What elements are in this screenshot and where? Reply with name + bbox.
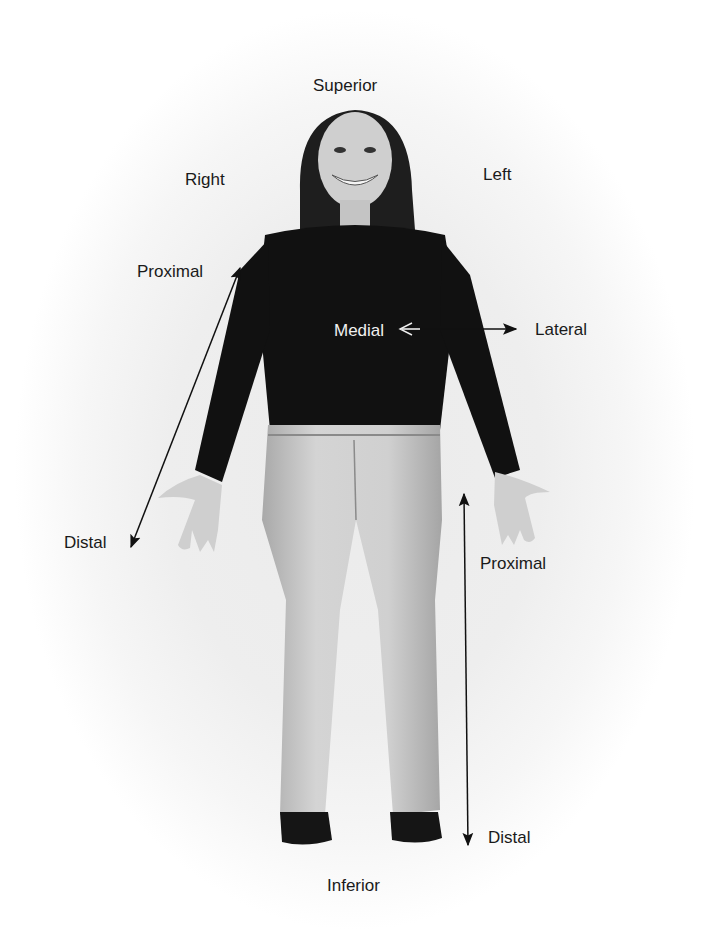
anatomy-diagram: Superior Right Left Proximal Medial Late… xyxy=(0,0,707,938)
label-leg-proximal: Proximal xyxy=(480,555,546,572)
face xyxy=(318,112,392,208)
label-superior: Superior xyxy=(313,77,377,94)
label-medial: Medial xyxy=(334,322,384,339)
right-sleeve xyxy=(195,240,270,482)
leg-proximal-distal-arrow xyxy=(464,494,468,845)
right-shoe xyxy=(280,812,332,845)
right-hand xyxy=(158,475,222,552)
label-leg-distal: Distal xyxy=(488,829,531,846)
jeans xyxy=(262,425,442,815)
label-right: Right xyxy=(185,171,225,188)
figure-illustration xyxy=(0,0,707,938)
label-arm-proximal: Proximal xyxy=(137,263,203,280)
label-lateral: Lateral xyxy=(535,321,587,338)
label-arm-distal: Distal xyxy=(64,534,107,551)
label-inferior: Inferior xyxy=(327,877,380,894)
label-left: Left xyxy=(483,166,511,183)
left-shoe xyxy=(390,812,442,843)
left-hand xyxy=(494,472,550,545)
left-sleeve xyxy=(440,240,520,478)
